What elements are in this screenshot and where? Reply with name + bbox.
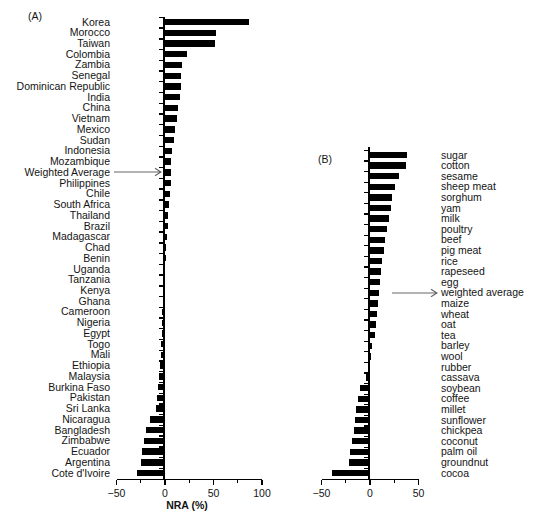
panel-b-chart: sugarcottonsesamesheep meatsorghumyammil…: [0, 0, 540, 527]
bar: [355, 417, 370, 423]
x-axis-title: NRA (%): [137, 499, 237, 511]
y-axis-tick: [364, 309, 369, 310]
bar: [370, 332, 375, 338]
bar: [349, 459, 370, 465]
bar: [354, 427, 370, 433]
x-axis-tick: [369, 480, 370, 485]
y-axis-tick: [364, 213, 369, 214]
y-axis-tick: [364, 256, 369, 257]
x-tick-label: 50: [403, 487, 435, 499]
bar: [356, 406, 370, 412]
y-axis-tick: [364, 298, 369, 299]
bar: [368, 364, 370, 370]
x-axis-minor-tick: [345, 480, 346, 483]
y-axis-tick: [364, 277, 369, 278]
bar: [370, 290, 379, 296]
bar: [370, 237, 385, 243]
y-axis-tick: [364, 341, 369, 342]
y-axis-tick: [364, 192, 369, 193]
y-axis-tick: [364, 224, 369, 225]
x-tick-label: 0: [354, 487, 386, 499]
bar: [370, 311, 377, 317]
bar: [370, 226, 387, 232]
weighted-average-arrow: [392, 287, 438, 299]
bar: [370, 152, 407, 158]
bar: [370, 184, 395, 190]
y-axis-tick: [364, 351, 369, 352]
bar: [370, 268, 381, 274]
bar: [370, 194, 392, 200]
bar: [370, 215, 389, 221]
figure-canvas: (A) (B) KoreaMoroccoTaiwanColombiaZambia…: [0, 0, 540, 527]
y-axis-tick: [364, 160, 369, 161]
bar: [350, 449, 370, 455]
category-label: cocoa: [441, 468, 539, 479]
x-axis-tick: [418, 480, 419, 485]
bar: [370, 247, 384, 253]
bar: [370, 162, 406, 168]
bar: [370, 321, 376, 327]
bar: [370, 300, 378, 306]
bar: [370, 343, 372, 349]
y-axis-tick: [364, 319, 369, 320]
x-tick-label: −50: [306, 487, 338, 499]
y-axis-tick: [364, 330, 369, 331]
y-axis-tick: [364, 203, 369, 204]
y-axis-tick: [364, 288, 369, 289]
y-axis-tick: [364, 150, 369, 151]
bar: [360, 385, 370, 391]
bar: [332, 470, 370, 476]
bar: [352, 438, 370, 444]
y-axis-tick: [364, 245, 369, 246]
y-axis-tick: [364, 171, 369, 172]
bar: [358, 396, 370, 402]
bar: [370, 173, 399, 179]
y-axis-tick: [364, 266, 369, 267]
bar: [370, 279, 380, 285]
bar: [370, 205, 391, 211]
bar: [370, 258, 382, 264]
bar: [366, 374, 370, 380]
y-axis-tick: [364, 235, 369, 236]
bar: [370, 353, 371, 359]
y-axis-tick: [364, 182, 369, 183]
x-axis-tick: [321, 480, 322, 485]
x-axis-minor-tick: [394, 480, 395, 483]
